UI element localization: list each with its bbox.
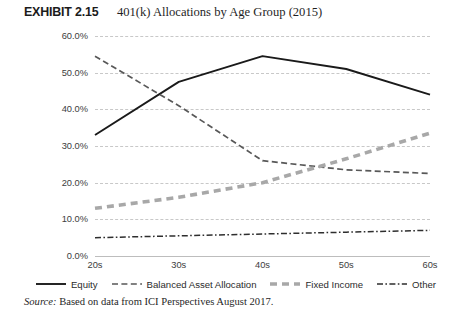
legend-item[interactable]: Other: [377, 279, 436, 290]
legend-item[interactable]: Balanced Asset Allocation: [112, 279, 257, 290]
x-axis-labels: 20s30s40s50s60s: [95, 260, 430, 276]
legend-label: Other: [412, 279, 436, 290]
legend-item[interactable]: Fixed Income: [270, 279, 363, 290]
y-axis-labels: 60.0%50.0%40.0%30.0%20.0%10.0%0.0%: [16, 36, 88, 256]
exhibit-number: EXHIBIT 2.15: [24, 4, 98, 19]
legend-swatch-dashed-icon: [112, 279, 142, 289]
figure-header: EXHIBIT 2.15 401(k) Allocations by Age G…: [24, 4, 322, 20]
x-axis-tick-label: 40s: [255, 260, 270, 270]
page-title: 401(k) Allocations by Age Group (2015): [117, 5, 322, 20]
legend-label: Balanced Asset Allocation: [147, 279, 257, 290]
legend-swatch-solid-icon: [36, 279, 66, 289]
y-axis-tick-label: 40.0%: [30, 104, 88, 114]
y-axis-tick-label: 50.0%: [30, 68, 88, 78]
legend-swatch-thick-dashed-icon: [270, 279, 300, 289]
y-axis-tick-label: 30.0%: [30, 141, 88, 151]
x-axis-tick-label: 30s: [171, 260, 186, 270]
source-prefix: Source:: [24, 296, 57, 307]
series-line: [95, 56, 430, 173]
axis-baseline: [95, 256, 430, 257]
series-layer: [95, 36, 430, 256]
y-axis-tick-label: 60.0%: [30, 31, 88, 41]
y-axis-tick-label: 0.0%: [30, 251, 88, 261]
legend-swatch-dash-dot-icon: [377, 279, 407, 289]
plot-area: [95, 36, 430, 256]
series-line: [95, 230, 430, 237]
x-axis-tick-label: 50s: [339, 260, 354, 270]
series-line: [95, 56, 430, 135]
source-note: Source: Based on data from ICI Perspecti…: [24, 296, 273, 307]
line-chart: 60.0%50.0%40.0%30.0%20.0%10.0%0.0% 20s30…: [0, 26, 472, 274]
legend-label: Fixed Income: [305, 279, 363, 290]
source-text: Based on data from ICI Perspectives Augu…: [57, 296, 274, 307]
chart-legend: EquityBalanced Asset AllocationFixed Inc…: [0, 276, 472, 292]
legend-label: Equity: [71, 279, 98, 290]
y-axis-tick-label: 20.0%: [30, 178, 88, 188]
legend-item[interactable]: Equity: [36, 279, 98, 290]
x-axis-tick-label: 60s: [423, 260, 438, 270]
x-axis-tick-label: 20s: [88, 260, 103, 270]
y-axis-tick-label: 10.0%: [30, 214, 88, 224]
exhibit-figure: EXHIBIT 2.15 401(k) Allocations by Age G…: [0, 0, 472, 313]
